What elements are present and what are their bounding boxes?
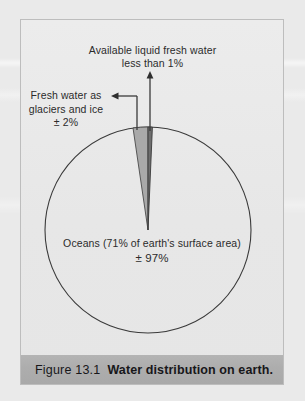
figure-caption-number: Figure 13.1 [35, 363, 100, 377]
label-fresh-water-glaciers: Fresh water as glaciers and ice ± 2% [14, 89, 118, 130]
label-oceans-line2: ± 97% [20, 251, 284, 266]
pie-slice-glaciers [133, 127, 148, 230]
label-available-line1: Available liquid fresh water [89, 44, 217, 56]
label-oceans-line1: Oceans (71% of earth's surface area) [63, 237, 241, 249]
label-glaciers-line2: glaciers and ice [29, 103, 104, 115]
figure-caption-title: Water distribution on earth. [107, 363, 273, 377]
figure-container: Available liquid fresh water less than 1… [0, 0, 305, 401]
label-available-line2: less than 1% [0, 57, 305, 70]
label-glaciers-line1: Fresh water as [31, 89, 102, 101]
figure-caption-bar: Figure 13.1Water distribution on earth. [20, 355, 284, 385]
pie-slice-liquid-fresh-water [148, 127, 152, 230]
figure-caption-text: Figure 13.1Water distribution on earth. [21, 363, 273, 377]
label-oceans: Oceans (71% of earth's surface area) ± 9… [20, 236, 284, 266]
arrowhead-up-icon [147, 71, 154, 79]
label-available-liquid-fresh-water: Available liquid fresh water less than 1… [0, 44, 305, 70]
label-glaciers-line3: ± 2% [54, 116, 78, 128]
